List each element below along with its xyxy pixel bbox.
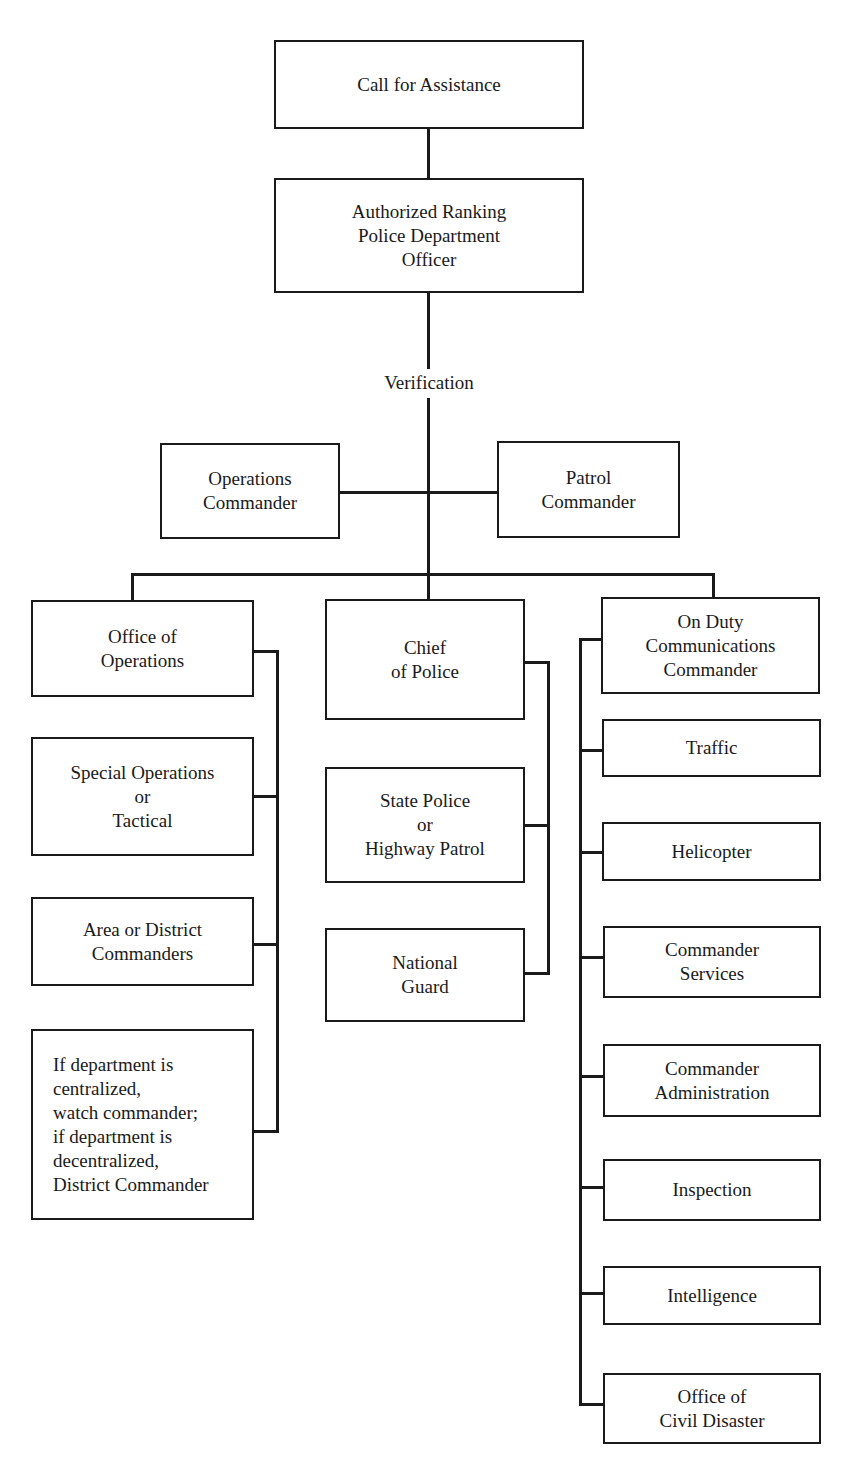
box-traffic: Traffic xyxy=(602,719,821,777)
connector-drop-left xyxy=(131,573,134,601)
flowchart-canvas: Call for Assistance Authorized Ranking P… xyxy=(0,0,857,1472)
connector-right-stub-4 xyxy=(579,1075,603,1078)
box-special-operations: Special Operations or Tactical xyxy=(31,737,254,856)
box-office-of-civil-disaster: Office of Civil Disaster xyxy=(603,1373,821,1444)
connector-right-stub-1 xyxy=(579,749,602,752)
connector-right-bus xyxy=(579,638,582,1405)
connector-call-to-officer xyxy=(427,129,430,179)
box-authorized-officer: Authorized Ranking Police Department Off… xyxy=(274,178,584,293)
box-operations-commander: Operations Commander xyxy=(160,443,340,539)
connector-left-stub-3 xyxy=(254,1130,279,1133)
verification-label: Verification xyxy=(354,371,504,395)
connector-right-stub-6 xyxy=(579,1292,603,1295)
connector-center-bus xyxy=(547,661,550,975)
connector-right-stub-0 xyxy=(579,638,602,641)
connector-left-stub-2 xyxy=(254,943,279,946)
box-centralized-decentralized-note: If department is centralized, watch comm… xyxy=(31,1029,254,1220)
connector-distribution-bar xyxy=(131,573,715,576)
connector-right-stub-7 xyxy=(579,1403,603,1406)
connector-officer-to-verification xyxy=(427,293,430,369)
connector-drop-right xyxy=(712,573,715,599)
box-area-district-commanders: Area or District Commanders xyxy=(31,897,254,986)
connector-right-stub-3 xyxy=(579,956,603,959)
box-chief-of-police: Chief of Police xyxy=(325,599,525,720)
connector-right-stub-2 xyxy=(579,851,602,854)
connector-commanders-horizontal xyxy=(340,491,498,494)
connector-left-stub-0 xyxy=(254,650,279,653)
box-state-police: State Police or Highway Patrol xyxy=(325,767,525,883)
box-national-guard: National Guard xyxy=(325,928,525,1022)
connector-left-bus xyxy=(276,650,279,1133)
connector-right-stub-5 xyxy=(579,1186,603,1189)
connector-center-stub-0 xyxy=(525,661,550,664)
box-commander-services: Commander Services xyxy=(603,926,821,998)
box-helicopter: Helicopter xyxy=(602,822,821,881)
connector-verification-trunk xyxy=(427,398,430,600)
connector-center-stub-2 xyxy=(525,972,550,975)
connector-center-stub-1 xyxy=(525,824,550,827)
box-on-duty-communications-commander: On Duty Communications Commander xyxy=(601,597,820,694)
box-intelligence: Intelligence xyxy=(603,1266,821,1325)
box-office-of-operations: Office of Operations xyxy=(31,600,254,697)
box-patrol-commander: Patrol Commander xyxy=(497,441,680,538)
box-commander-administration: Commander Administration xyxy=(603,1044,821,1117)
box-call-for-assistance: Call for Assistance xyxy=(274,40,584,129)
connector-left-stub-1 xyxy=(254,795,279,798)
box-inspection: Inspection xyxy=(603,1159,821,1221)
